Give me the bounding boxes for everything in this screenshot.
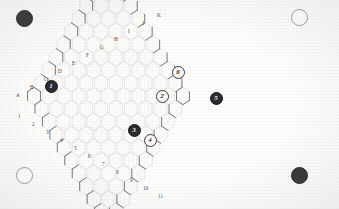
edge-number-3: 3	[46, 130, 49, 135]
edge-number-2: 2	[32, 122, 35, 127]
edge-number-4: 4	[60, 138, 63, 143]
corner-marker-top-right	[291, 9, 308, 26]
game-piece-3[interactable]: 3	[128, 124, 141, 137]
edge-letter-j: J	[142, 21, 144, 26]
edge-number-10: 10	[143, 186, 148, 191]
game-piece-6[interactable]: 6	[172, 66, 185, 79]
edge-letter-g: G	[100, 45, 104, 50]
corner-marker-bottom-left	[16, 167, 33, 184]
edge-number-6: 6	[88, 154, 91, 159]
game-piece-1[interactable]: 1	[45, 80, 58, 93]
hex-grid[interactable]	[0, 0, 339, 209]
edge-number-5: 5	[74, 146, 77, 151]
edge-letter-f: F	[86, 53, 89, 58]
edge-letter-h: H	[114, 37, 118, 42]
edge-number-9: 9	[130, 178, 133, 183]
hex-cell-group	[28, 0, 190, 209]
edge-letter-d: D	[58, 69, 62, 74]
edge-letter-b: B	[30, 85, 33, 90]
edge-number-8: 8	[116, 170, 119, 175]
edge-letter-e: E	[72, 61, 75, 66]
edge-number-1: 1	[18, 114, 21, 119]
edge-letter-i: I	[128, 29, 130, 34]
hex-board-screenshot: ABCDEFGHIJK 1234567891011 123456	[0, 0, 339, 209]
edge-letter-k: K	[157, 13, 161, 18]
game-piece-4[interactable]: 4	[144, 134, 157, 147]
edge-number-11: 11	[158, 194, 163, 199]
edge-number-7: 7	[102, 162, 105, 167]
edge-letter-a: A	[16, 93, 20, 98]
corner-marker-bottom-right	[291, 167, 308, 184]
game-piece-5[interactable]: 5	[210, 92, 223, 105]
corner-marker-top-left	[16, 10, 33, 27]
game-piece-2[interactable]: 2	[156, 90, 169, 103]
